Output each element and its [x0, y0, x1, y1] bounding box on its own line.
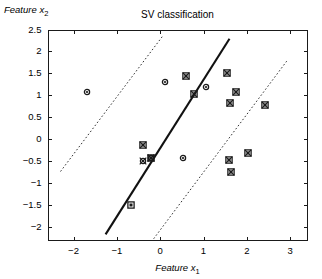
data-point-square: [260, 99, 271, 110]
data-point-square: [145, 152, 156, 163]
y-tick: [48, 30, 52, 31]
y-tick-label: 1.5: [0, 68, 42, 78]
y-tick-right: [304, 95, 308, 96]
data-point-square: [242, 148, 253, 159]
x-tick-label: 3: [288, 246, 293, 256]
x-tick-top: [74, 30, 75, 34]
data-point-square: [224, 155, 235, 166]
data-point-square: [230, 87, 241, 98]
y-tick-label: −1: [0, 178, 42, 188]
y-tick-right: [304, 51, 308, 52]
x-tick-top: [290, 30, 291, 34]
x-tick-label: −2: [68, 246, 79, 256]
data-point-square: [137, 140, 148, 151]
y-tick: [48, 139, 52, 140]
y-tick: [48, 73, 52, 74]
data-point-circle: [159, 77, 170, 88]
x-tick-label: 0: [158, 246, 163, 256]
data-point-square: [225, 98, 236, 109]
x-tick: [290, 237, 291, 241]
y-tick-label: −0.5: [0, 156, 42, 166]
x-tick: [160, 237, 161, 241]
sv-classification-figure: SV classification Feature x2 Feature x1 …: [0, 0, 322, 279]
x-tick-label: −1: [111, 246, 122, 256]
y-tick-label: 2.5: [0, 25, 42, 35]
y-tick: [48, 227, 52, 228]
data-point-square: [188, 89, 199, 100]
y-tick-label: 0.5: [0, 112, 42, 122]
margin-upper-left: [61, 37, 163, 172]
y-tick-right: [304, 183, 308, 184]
data-point-square: [126, 200, 137, 211]
y-tick: [48, 205, 52, 206]
y-tick-label: −2: [0, 222, 42, 232]
x-tick: [247, 237, 248, 241]
data-point-circle: [178, 153, 189, 164]
data-point-circle: [81, 86, 92, 97]
y-tick: [48, 117, 52, 118]
x-tick-top: [160, 30, 161, 34]
y-tick-right: [304, 227, 308, 228]
y-tick-label: −1.5: [0, 200, 42, 210]
y-tick-label: 2: [0, 46, 42, 56]
y-tick-right: [304, 73, 308, 74]
data-point-square: [181, 71, 192, 82]
margin-lower-right: [154, 61, 287, 239]
x-tick: [117, 237, 118, 241]
y-tick: [48, 183, 52, 184]
data-point-square: [225, 167, 236, 178]
x-tick-top: [247, 30, 248, 34]
x-tick: [74, 237, 75, 241]
x-tick-top: [117, 30, 118, 34]
x-tick-label: 2: [244, 246, 249, 256]
data-point-circle: [200, 82, 211, 93]
y-tick-right: [304, 161, 308, 162]
y-tick: [48, 95, 52, 96]
y-tick-right: [304, 139, 308, 140]
y-tick: [48, 161, 52, 162]
y-tick-label: 1: [0, 90, 42, 100]
y-tick: [48, 51, 52, 52]
decision-boundary: [106, 39, 230, 235]
data-point-square: [221, 68, 232, 79]
x-tick-top: [204, 30, 205, 34]
y-tick-right: [304, 205, 308, 206]
x-tick-label: 1: [201, 246, 206, 256]
y-tick-label: 0: [0, 134, 42, 144]
y-tick-right: [304, 30, 308, 31]
x-tick: [204, 237, 205, 241]
y-tick-right: [304, 117, 308, 118]
